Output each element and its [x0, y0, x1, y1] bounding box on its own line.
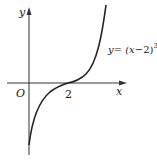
equation-minus: −2): [135, 44, 154, 55]
y-axis-label: y: [18, 6, 26, 19]
function-graph: y O 2 x y= (x−2)3: [0, 0, 157, 162]
equation-exponent: 3: [153, 42, 157, 50]
cubic-curve: [29, 5, 106, 145]
y-axis-arrow-icon: [27, 7, 32, 15]
origin-label: O: [16, 87, 25, 100]
equation-prefix: y= (x: [107, 44, 135, 55]
x-tick-label-2: 2: [65, 88, 72, 101]
x-axis-label: x: [116, 85, 123, 98]
equation-label: y= (x−2)3: [107, 42, 157, 55]
